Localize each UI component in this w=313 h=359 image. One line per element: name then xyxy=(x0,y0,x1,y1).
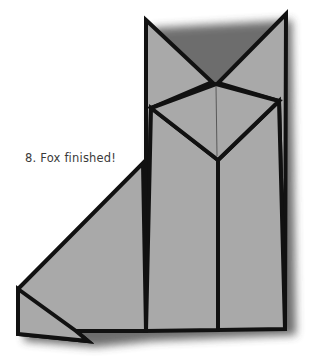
step-caption: 8. Fox finished! xyxy=(25,151,116,165)
fox-illustration xyxy=(0,0,313,359)
